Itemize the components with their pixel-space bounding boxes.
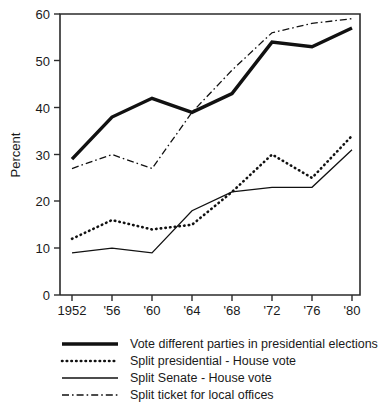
legend-label-1: Split presidential - House vote: [130, 354, 296, 368]
series-split-senate-house-vote: [72, 150, 352, 253]
legend-label-3: Split ticket for local offices: [130, 388, 274, 402]
legend-label-0: Vote different parties in presidential e…: [130, 337, 378, 351]
plot-frame: [60, 14, 360, 295]
legend: Vote different parties in presidential e…: [62, 337, 378, 402]
y-tick-label-20: 20: [36, 194, 50, 209]
series-split-ticket-local-offices: [72, 19, 352, 169]
series-vote-different-parties: [72, 28, 352, 159]
x-axis-tick-labels: 1952 '56 '60 '64 '68 '72 '76 '80: [58, 303, 361, 318]
y-axis-tick-labels: 0 10 20 30 40 50 60: [36, 7, 50, 303]
y-axis-ticks: [54, 14, 60, 295]
x-tick-label-1952: 1952: [58, 303, 87, 318]
chart-figure: 0 10 20 30 40 50 60 Percent 1952 '56 '60…: [0, 0, 388, 410]
x-tick-label-1972: '72: [264, 303, 281, 318]
y-tick-label-30: 30: [36, 148, 50, 163]
y-tick-label-10: 10: [36, 241, 50, 256]
x-tick-label-1980: '80: [344, 303, 361, 318]
x-tick-label-1976: '76: [304, 303, 321, 318]
y-tick-label-60: 60: [36, 7, 50, 22]
y-tick-label-50: 50: [36, 54, 50, 69]
x-tick-label-1964: '64: [184, 303, 201, 318]
y-tick-label-40: 40: [36, 101, 50, 116]
line-chart-svg: 0 10 20 30 40 50 60 Percent 1952 '56 '60…: [0, 0, 388, 410]
y-axis-title: Percent: [8, 132, 23, 177]
x-tick-label-1956: '56: [104, 303, 121, 318]
x-axis-ticks: [72, 295, 352, 301]
y-tick-label-0: 0: [43, 288, 50, 303]
x-tick-label-1960: '60: [144, 303, 161, 318]
x-tick-label-1968: '68: [224, 303, 241, 318]
legend-label-2: Split Senate - House vote: [130, 371, 272, 385]
